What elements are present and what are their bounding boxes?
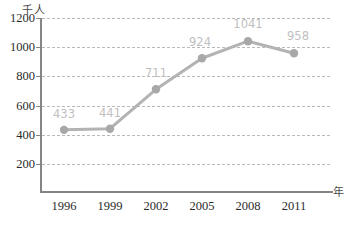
data-point-marker <box>290 49 298 57</box>
data-point-marker <box>106 124 114 132</box>
x-axis-unit-label: 年 <box>333 183 344 199</box>
line-chart: 千人 年 20040060080010001200 19961999200220… <box>0 0 354 227</box>
data-point-marker <box>60 126 68 134</box>
data-point-label: 433 <box>53 107 75 121</box>
data-point-label: 924 <box>189 35 211 49</box>
x-axis-tick-label: 2008 <box>236 199 261 214</box>
x-axis-tick-label: 2005 <box>190 199 215 214</box>
y-axis-tick-label: 600 <box>16 98 35 113</box>
y-axis-tick-label: 400 <box>16 127 35 142</box>
y-axis-tick-label: 800 <box>16 69 35 84</box>
data-point-marker <box>198 54 206 62</box>
data-point-label: 1041 <box>233 17 262 31</box>
x-axis-tick-label: 2002 <box>144 199 169 214</box>
data-point-marker <box>152 85 160 93</box>
data-point-label: 958 <box>287 29 309 43</box>
data-point-label: 441 <box>99 106 121 120</box>
x-axis-tick-label: 2011 <box>282 199 307 214</box>
data-series <box>40 18 330 193</box>
y-axis-tick-label: 1200 <box>10 11 35 26</box>
plot-area: 20040060080010001200 1996199920022005200… <box>40 18 330 193</box>
x-axis-tick-label: 1996 <box>52 199 77 214</box>
x-axis-tick-label: 1999 <box>98 199 123 214</box>
data-point-label: 711 <box>145 66 167 80</box>
y-axis-tick-label: 1000 <box>10 40 35 55</box>
data-point-marker <box>244 37 252 45</box>
y-axis-tick-label: 200 <box>16 156 35 171</box>
